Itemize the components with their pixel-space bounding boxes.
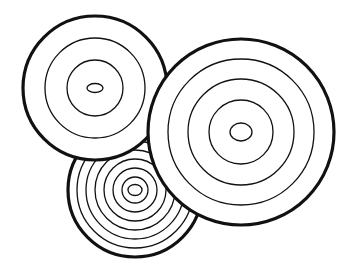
rings-canvas: [0, 0, 354, 270]
top-left-circle: [23, 16, 167, 160]
ring-drawing: [0, 0, 354, 270]
right-circle: [148, 39, 334, 225]
